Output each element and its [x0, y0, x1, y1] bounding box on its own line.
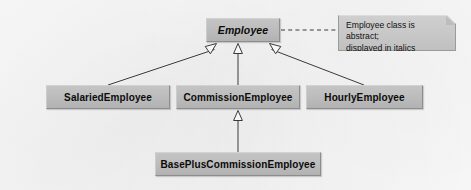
uml-class-diagram: Employee SalariedEmployee CommissionEmpl…	[0, 0, 471, 190]
uml-class-name-commission-employee: CommissionEmployee	[183, 92, 292, 103]
uml-class-box-commission-employee[interactable]: CommissionEmployee	[176, 85, 300, 109]
uml-class-name-employee: Employee	[218, 24, 268, 36]
uml-class-name-base-plus-commission-employee: BasePlusCommissionEmployee	[161, 159, 316, 170]
uml-class-box-base-plus-commission-employee[interactable]: BasePlusCommissionEmployee	[155, 152, 321, 176]
note-text-line-1: Employee class is abstract;	[346, 20, 449, 43]
uml-class-name-salaried-employee: SalariedEmployee	[64, 92, 152, 103]
uml-class-box-salaried-employee[interactable]: SalariedEmployee	[46, 85, 170, 109]
uml-class-box-hourly-employee[interactable]: HourlyEmployee	[306, 85, 423, 109]
arrowhead-commission-to-employee	[234, 44, 243, 54]
generalization-line-hourly-to-employee	[272, 50, 365, 86]
uml-class-name-hourly-employee: HourlyEmployee	[324, 92, 404, 103]
generalization-line-salaried-to-employee	[108, 50, 215, 86]
arrowhead-baseplus-to-commission	[234, 111, 243, 121]
uml-note-abstract-class[interactable]: Employee class is abstract; displayed in…	[338, 15, 456, 51]
uml-class-box-employee[interactable]: Employee	[206, 18, 280, 42]
